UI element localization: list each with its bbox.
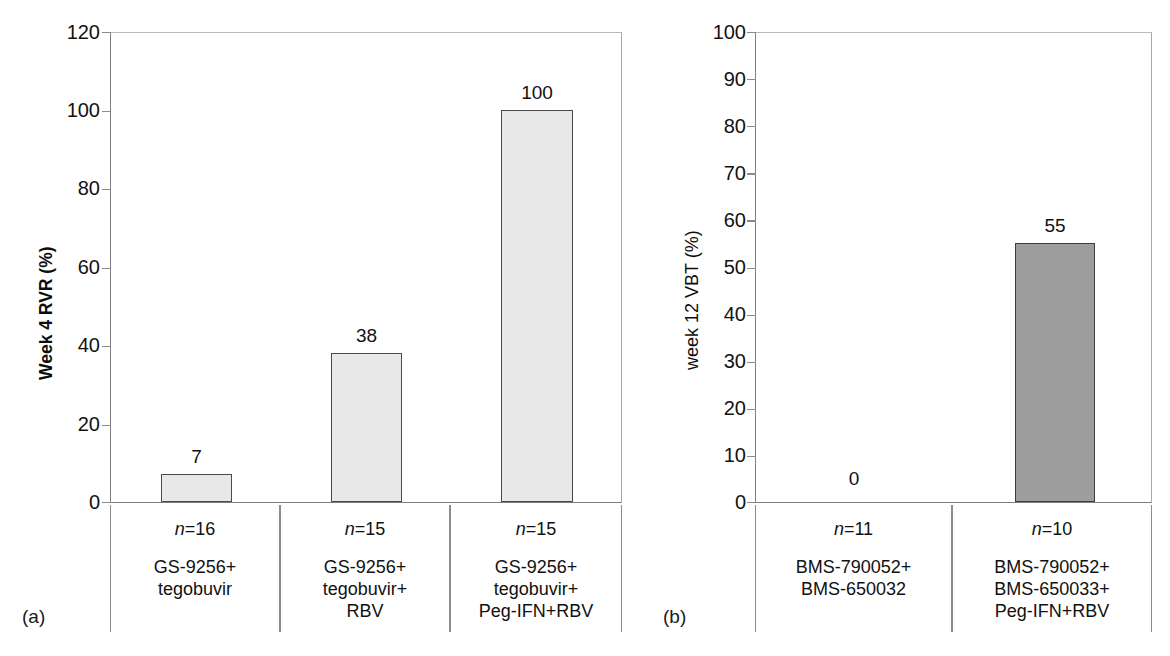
y-tick-0 [102, 502, 111, 503]
category-b-1-n: n=11 [756, 519, 951, 539]
y-tick-label-20: 20 [78, 414, 100, 434]
y-tick-label-40: 40 [78, 335, 100, 355]
bar-b-1-value: 0 [818, 469, 890, 488]
y-tick-label-10: 10 [724, 445, 746, 465]
category-b-1-label: BMS-790052+ BMS-650032 [756, 556, 951, 600]
y-tick-20 [102, 425, 111, 426]
category-b-2-n: n=10 [953, 519, 1151, 539]
y-tick-10 [747, 456, 756, 457]
y-tick-90 [747, 79, 756, 80]
y-tick-label-90: 90 [724, 69, 746, 89]
panel-a-letter: (a) [22, 606, 45, 628]
y-tick-label-40: 40 [724, 304, 746, 324]
y-tick-60 [747, 220, 756, 221]
category-cell-b-2: n=10 BMS-790052+ BMS-650033+ Peg-IFN+RBV [952, 505, 1152, 632]
y-tick-100 [102, 111, 111, 112]
panel-b-y-axis-title: week 12 VBT (%) [682, 230, 703, 370]
y-tick-40 [747, 315, 756, 316]
category-a-1-label: GS-9256+ tegobuvir [111, 556, 279, 600]
y-tick-100 [747, 32, 756, 33]
figure-two-panel-bar-charts: (a) Week 4 RVR (%) 120 100 80 60 40 20 0… [0, 0, 1170, 656]
panel-a-y-tick-labels: 120 100 80 60 40 20 0 [52, 0, 100, 520]
bar-a-2-value: 38 [331, 326, 402, 345]
bar-a-1 [161, 474, 232, 502]
panel-b: (b) week 12 VBT (%) 100 90 80 70 60 50 4… [660, 0, 1170, 656]
bar-a-2 [331, 353, 402, 502]
y-tick-50 [747, 268, 756, 269]
y-tick-70 [747, 173, 756, 174]
category-cell-a-3: n=15 GS-9256+ tegobuvir+ Peg-IFN+RBV [450, 505, 622, 632]
y-tick-80 [102, 189, 111, 190]
y-tick-label-20: 20 [724, 398, 746, 418]
y-tick-30 [747, 362, 756, 363]
y-tick-label-100: 100 [67, 100, 100, 120]
category-a-2-n: n=15 [281, 519, 449, 539]
panel-a-plot-area: 7 38 100 [110, 32, 622, 503]
y-tick-label-70: 70 [724, 163, 746, 183]
category-a-3-label: GS-9256+ tegobuvir+ Peg-IFN+RBV [451, 556, 621, 622]
panel-a: (a) Week 4 RVR (%) 120 100 80 60 40 20 0… [0, 0, 660, 656]
y-tick-label-60: 60 [78, 257, 100, 277]
category-a-1-n: n=16 [111, 519, 279, 539]
y-tick-0 [747, 502, 756, 503]
y-tick-40 [102, 346, 111, 347]
panel-a-x-axis [111, 502, 621, 503]
panel-b-x-axis [756, 502, 1151, 503]
bar-a-3 [501, 110, 573, 502]
y-tick-label-0: 0 [89, 492, 100, 512]
category-a-3-n: n=15 [451, 519, 621, 539]
category-cell-a-1: n=16 GS-9256+ tegobuvir [110, 505, 280, 632]
y-tick-label-50: 50 [724, 257, 746, 277]
y-tick-80 [747, 126, 756, 127]
bar-b-2 [1015, 243, 1095, 502]
category-a-2-label: GS-9256+ tegobuvir+ RBV [281, 556, 449, 622]
category-b-2-label: BMS-790052+ BMS-650033+ Peg-IFN+RBV [953, 556, 1151, 622]
y-tick-label-80: 80 [724, 116, 746, 136]
y-tick-label-100: 100 [713, 22, 746, 42]
category-cell-b-1: n=11 BMS-790052+ BMS-650032 [755, 505, 952, 632]
bar-a-3-value: 100 [501, 83, 573, 102]
y-tick-60 [102, 268, 111, 269]
panel-b-letter: (b) [663, 606, 686, 628]
y-tick-120 [102, 32, 111, 33]
y-tick-label-60: 60 [724, 210, 746, 230]
category-cell-a-2: n=15 GS-9256+ tegobuvir+ RBV [280, 505, 450, 632]
bar-a-1-value: 7 [161, 447, 232, 466]
y-tick-label-80: 80 [78, 178, 100, 198]
panel-b-plot-area: 0 55 [755, 32, 1152, 503]
bar-b-2-value: 55 [1015, 216, 1095, 235]
y-tick-20 [747, 409, 756, 410]
panel-b-y-tick-labels: 100 90 80 70 60 50 40 30 20 10 0 [708, 0, 746, 520]
y-tick-label-120: 120 [67, 22, 100, 42]
y-tick-label-30: 30 [724, 351, 746, 371]
y-tick-label-0: 0 [735, 492, 746, 512]
